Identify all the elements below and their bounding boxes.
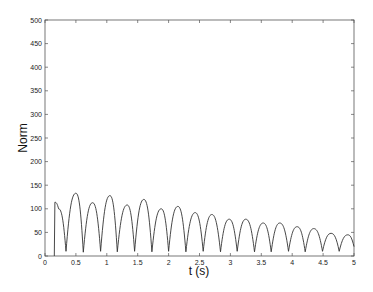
x-tick-label: 2 <box>167 259 171 266</box>
x-tick-label: 4 <box>290 259 294 266</box>
y-tick-label: 300 <box>30 111 42 118</box>
x-axis: 00.511.522.533.544.55 <box>43 20 356 266</box>
norm-series-line <box>54 193 354 256</box>
x-axis-label: t (s) <box>189 264 210 278</box>
x-tick-label: 0 <box>43 259 47 266</box>
x-tick-label: 1 <box>105 259 109 266</box>
y-tick-label: 0 <box>38 253 42 260</box>
y-tick-label: 200 <box>30 158 42 165</box>
y-tick-label: 150 <box>30 182 42 189</box>
y-axis: 050100150200250300350400450500 <box>30 17 354 260</box>
x-tick-label: 0.5 <box>71 259 81 266</box>
y-tick-label: 400 <box>30 64 42 71</box>
y-tick-label: 450 <box>30 40 42 47</box>
y-tick-label: 100 <box>30 205 42 212</box>
x-tick-label: 1.5 <box>133 259 143 266</box>
x-tick-label: 4.5 <box>318 259 328 266</box>
x-tick-label: 3 <box>228 259 232 266</box>
y-tick-label: 50 <box>34 229 42 236</box>
x-tick-label: 3.5 <box>256 259 266 266</box>
y-axis-label: Norm <box>16 123 30 152</box>
y-tick-label: 350 <box>30 87 42 94</box>
x-tick-label: 5 <box>352 259 356 266</box>
line-chart: 050100150200250300350400450500 00.511.52… <box>0 0 373 292</box>
y-tick-label: 250 <box>30 135 42 142</box>
y-tick-label: 500 <box>30 17 42 24</box>
